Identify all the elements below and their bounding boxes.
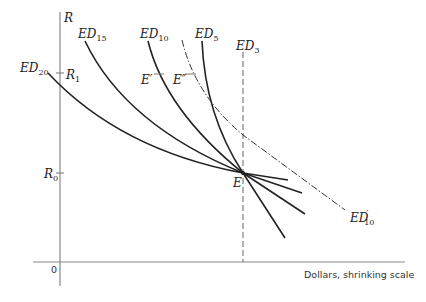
e-double-prime-label: E″: [172, 73, 187, 87]
e-prime-label: E′: [140, 73, 153, 87]
r0-label: R0: [43, 167, 58, 183]
e-label: E: [232, 176, 242, 190]
ed15-curve: [85, 41, 302, 193]
y-axis-label: R: [63, 11, 73, 25]
ed5-label: ED5: [194, 27, 218, 43]
ed10-label: ED10: [139, 27, 169, 43]
r1-label: R1: [65, 68, 80, 84]
equilibrium-point: [241, 171, 245, 175]
x-axis-label: Dollars, shrinking scale: [304, 269, 415, 280]
origin-label: 0: [51, 264, 57, 275]
ed10-prime-label: ED′10: [349, 208, 374, 227]
ed10-curve: [148, 41, 305, 214]
ed10-prime-curve: [182, 40, 345, 210]
ed3-label: ED3: [235, 39, 259, 55]
ed15-label: ED15: [77, 27, 107, 43]
elasticity-diagram: R 0 Dollars, shrinking scale R1 R0 ED3 E…: [0, 0, 426, 302]
ed20-label: ED20: [19, 61, 49, 77]
